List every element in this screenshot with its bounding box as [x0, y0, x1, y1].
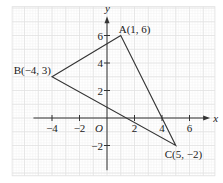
y-tick-label: 6 [98, 30, 104, 42]
y-tick-label: 4 [98, 57, 104, 69]
x-axis-label: x [212, 112, 218, 124]
x-axis-arrow-icon [203, 116, 210, 121]
coordinate-plane: −4−2246−2246 x y O A(1, 6) B(−4, 3) C(5,… [0, 0, 223, 183]
y-tick-label: 2 [98, 85, 104, 97]
labels: x y O A(1, 6) B(−4, 3) C(5, −2) [14, 2, 219, 160]
y-axis-arrow-icon [105, 16, 110, 23]
x-tick-label: −2 [74, 122, 86, 134]
point-label-c: C(5, −2) [165, 148, 203, 161]
origin-label: O [95, 122, 103, 134]
y-axis-label: y [104, 2, 110, 14]
point-label-a: A(1, 6) [119, 23, 151, 36]
x-tick-label: 6 [187, 122, 193, 134]
point-label-b: B(−4, 3) [14, 64, 52, 77]
y-tick-label: −2 [91, 140, 103, 152]
x-tick-label: −4 [46, 122, 58, 134]
